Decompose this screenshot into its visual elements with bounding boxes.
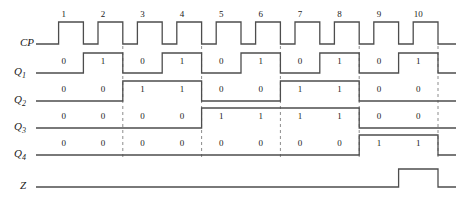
bit-value: 0 xyxy=(254,85,268,94)
bit-value: 1 xyxy=(214,112,228,121)
clock-number-label: 6 xyxy=(251,10,271,19)
clock-number-label: 4 xyxy=(172,10,192,19)
bit-value: 1 xyxy=(372,139,386,148)
bit-value: 1 xyxy=(254,112,268,121)
signal-label-z: Z xyxy=(20,180,26,191)
clock-number-label: 7 xyxy=(290,10,310,19)
bit-value: 0 xyxy=(214,57,228,66)
bit-value: 0 xyxy=(214,139,228,148)
bit-value: 1 xyxy=(333,57,347,66)
bit-value: 0 xyxy=(57,57,71,66)
bit-value: 0 xyxy=(57,112,71,121)
bit-value: 1 xyxy=(333,112,347,121)
signal-label-q1: Q1 xyxy=(14,66,26,80)
signal-label-q4: Q4 xyxy=(14,148,26,162)
signal-label-q2: Q2 xyxy=(14,94,26,108)
bit-value: 0 xyxy=(333,139,347,148)
bit-value: 0 xyxy=(411,85,425,94)
bit-value: 0 xyxy=(372,112,386,121)
bit-value: 1 xyxy=(175,57,189,66)
clock-number-label: 5 xyxy=(211,10,231,19)
bit-value: 1 xyxy=(293,85,307,94)
bit-value: 0 xyxy=(136,112,150,121)
clock-number-label: 8 xyxy=(330,10,350,19)
bit-value: 1 xyxy=(411,57,425,66)
bit-value: 0 xyxy=(175,139,189,148)
signal-label-cp: CP xyxy=(20,37,34,48)
bit-value: 1 xyxy=(96,57,110,66)
bit-value: 0 xyxy=(136,139,150,148)
bit-value: 0 xyxy=(411,112,425,121)
clock-number-label: 2 xyxy=(93,10,113,19)
bit-value: 0 xyxy=(57,139,71,148)
waveform-z xyxy=(36,169,456,187)
bit-value: 1 xyxy=(411,139,425,148)
clock-number-label: 9 xyxy=(369,10,389,19)
bit-value: 0 xyxy=(96,139,110,148)
bit-value: 0 xyxy=(96,112,110,121)
bit-value: 1 xyxy=(293,112,307,121)
bit-value: 1 xyxy=(136,85,150,94)
bit-value: 0 xyxy=(372,85,386,94)
clock-number-label: 1 xyxy=(54,10,74,19)
bit-value: 0 xyxy=(254,139,268,148)
bit-value: 0 xyxy=(57,85,71,94)
bit-value: 1 xyxy=(175,85,189,94)
bit-value: 0 xyxy=(214,85,228,94)
bit-value: 0 xyxy=(293,57,307,66)
waveform-canvas xyxy=(0,0,462,213)
clock-number-label: 3 xyxy=(133,10,153,19)
bit-value: 0 xyxy=(136,57,150,66)
clock-number-label: 10 xyxy=(408,10,428,19)
bit-value: 0 xyxy=(96,85,110,94)
bit-value: 1 xyxy=(254,57,268,66)
bit-value: 0 xyxy=(175,112,189,121)
waveform-cp xyxy=(36,22,456,44)
bit-value: 0 xyxy=(293,139,307,148)
bit-value: 0 xyxy=(372,57,386,66)
bit-value: 1 xyxy=(333,85,347,94)
timing-diagram: 12345678910CPQ10101010101Q20011001100Q30… xyxy=(0,0,462,213)
signal-label-q3: Q3 xyxy=(14,121,26,135)
